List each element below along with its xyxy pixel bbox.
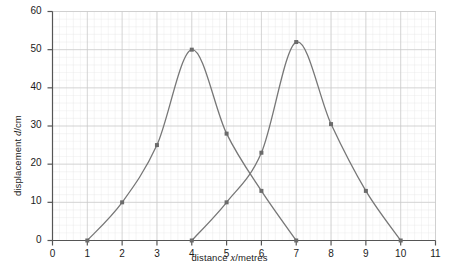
data-point <box>364 189 368 193</box>
y-tick-label: 30 <box>20 119 42 130</box>
data-point <box>294 239 298 243</box>
data-point <box>399 239 403 243</box>
data-point <box>225 132 229 136</box>
x-tick-label: 4 <box>182 248 202 259</box>
data-point <box>259 151 263 155</box>
italic-variable: d <box>12 131 23 136</box>
x-tick-label: 6 <box>251 248 271 259</box>
y-tick-label: 0 <box>20 234 42 245</box>
data-point <box>120 200 124 204</box>
y-tick-label: 10 <box>20 195 42 206</box>
y-tick-label: 40 <box>20 81 42 92</box>
data-point <box>225 200 229 204</box>
x-tick-label: 5 <box>217 248 237 259</box>
data-point <box>190 239 194 243</box>
data-point <box>329 122 333 126</box>
data-point <box>259 189 263 193</box>
x-tick-label: 9 <box>356 248 376 259</box>
y-tick-label: 60 <box>20 5 42 16</box>
plot-canvas <box>0 0 459 271</box>
data-point <box>190 48 194 52</box>
x-tick-label: 2 <box>112 248 132 259</box>
data-point <box>85 239 89 243</box>
data-point <box>155 143 159 147</box>
x-tick-label: 8 <box>321 248 341 259</box>
x-tick-label: 10 <box>391 248 411 259</box>
data-point <box>294 40 298 44</box>
x-tick-label: 1 <box>77 248 97 259</box>
y-tick-label: 50 <box>20 43 42 54</box>
x-tick-label: 0 <box>43 248 63 259</box>
x-tick-label: 11 <box>426 248 446 259</box>
x-tick-label: 7 <box>286 248 306 259</box>
y-tick-label: 20 <box>20 157 42 168</box>
x-tick-label: 3 <box>147 248 167 259</box>
chart-figure: displacement d/cm distance x/metres 0102… <box>0 0 459 271</box>
